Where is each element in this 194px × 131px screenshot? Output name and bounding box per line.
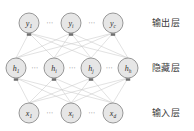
network-node-xi: xi <box>61 103 81 123</box>
ellipsis-mark: ⋯ <box>88 19 96 27</box>
edge-input-hidden <box>16 78 29 103</box>
ellipsis-mark: ⋯ <box>31 64 39 72</box>
node-stem <box>14 78 18 81</box>
network-node-hh: hh <box>118 58 138 78</box>
neural-network-figure: y1yiych1hihjhhx1xixd ⋯⋯⋯⋯⋯⋯⋯ 输出层 隐藏层 输入层 <box>0 0 194 131</box>
network-node-h1: h1 <box>6 58 26 78</box>
edge-hidden-output <box>91 33 113 58</box>
edge-hidden-output <box>113 33 128 58</box>
ellipsis-mark: ⋯ <box>46 19 54 27</box>
network-node-yi: yi <box>61 13 81 33</box>
edge-hidden-output <box>16 33 29 58</box>
edge-input-hidden <box>29 78 54 103</box>
edge-hidden-output <box>29 33 54 58</box>
edge-input-hidden <box>91 78 113 103</box>
node-label-subscript: 1 <box>17 68 20 74</box>
network-node-x1: x1 <box>19 103 39 123</box>
layer-label-input: 输入层 <box>152 109 180 118</box>
node-stem <box>52 78 56 81</box>
ellipsis-mark: ⋯ <box>88 109 96 117</box>
ellipsis-mark: ⋯ <box>69 64 77 72</box>
ellipsis-mark: ⋯ <box>46 109 54 117</box>
edge-input-hidden <box>16 78 113 103</box>
node-stem <box>27 33 31 36</box>
network-node-hi: hi <box>44 58 64 78</box>
node-label-subscript: h <box>129 68 132 74</box>
node-label-subscript: d <box>113 113 116 119</box>
node-label-subscript: 1 <box>29 23 32 29</box>
node-stem <box>111 33 115 36</box>
network-node-hj: hj <box>81 58 101 78</box>
node-stems <box>14 33 130 81</box>
network-node-y1: y1 <box>19 13 39 33</box>
network-node-xd: xd <box>103 103 123 123</box>
ellipsis-mark: ⋯ <box>106 64 114 72</box>
edge-hidden-output <box>29 33 91 58</box>
node-stem <box>126 78 130 81</box>
network-node-yc: yc <box>103 13 123 33</box>
layer-label-output: 输出层 <box>152 19 180 28</box>
node-label-subscript: 1 <box>29 113 32 119</box>
edge-hidden-output <box>16 33 113 58</box>
node-stem <box>89 78 93 81</box>
edge-input-hidden <box>113 78 128 103</box>
edge-input-hidden <box>29 78 91 103</box>
node-stem <box>69 33 73 36</box>
layer-label-hidden: 隐藏层 <box>152 64 180 73</box>
